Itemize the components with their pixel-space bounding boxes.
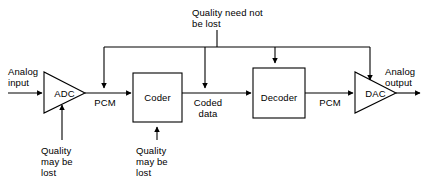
annotation-coder-quality-may-be-lost: Quality may be lost <box>136 145 168 178</box>
label-dac: DAC <box>355 88 396 99</box>
label-pcm-left: PCM <box>87 97 123 108</box>
block-diagram: Analog input ADC PCM Coder Coded data De… <box>0 0 426 193</box>
label-analog-input: Analog input <box>8 66 38 88</box>
label-analog-output: Analog output <box>385 66 415 88</box>
label-coder: Coder <box>133 92 182 103</box>
label-decoder: Decoder <box>253 92 305 103</box>
annotation-adc-quality-may-be-lost: Quality may be lost <box>41 145 73 178</box>
label-pcm-right: PCM <box>310 97 350 108</box>
label-adc: ADC <box>44 88 85 99</box>
annotation-quality-need-not-be-lost: Quality need not be lost <box>192 7 263 29</box>
label-coded-data: Coded data <box>186 97 230 119</box>
